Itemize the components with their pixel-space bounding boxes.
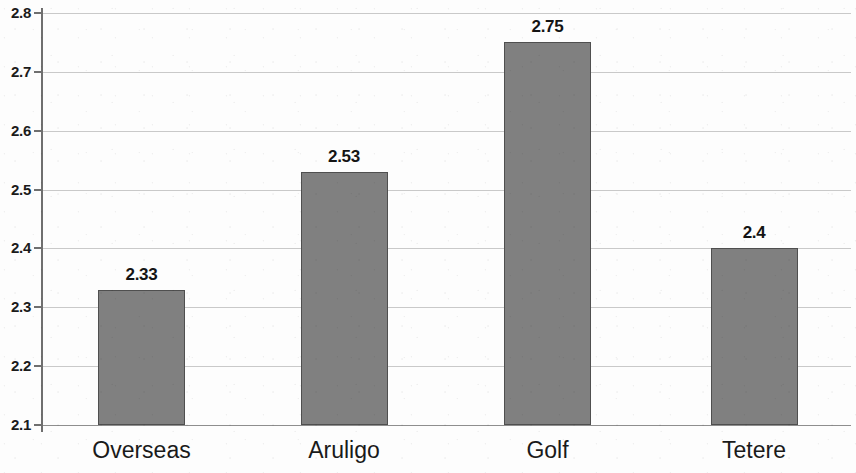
y-axis-tick [34, 306, 43, 308]
gridline [41, 131, 851, 132]
gridline [41, 190, 851, 191]
y-axis-tick-label: 2.3 [0, 298, 31, 315]
y-axis-tick-label: 2.7 [0, 63, 31, 80]
y-axis-tick [34, 247, 43, 249]
bar-chart: 2.82.72.62.52.42.32.22.1 2.332.532.752.4… [0, 0, 856, 473]
bar-value-label-overseas: 2.33 [92, 265, 192, 285]
y-axis-tick-label: 2.5 [0, 181, 31, 198]
gridline [41, 72, 851, 73]
y-axis-tick [34, 424, 43, 426]
y-axis-tick-label: 2.4 [0, 239, 31, 256]
y-axis-tick [34, 71, 43, 73]
y-axis-tick [34, 189, 43, 191]
gridline [41, 13, 851, 14]
y-axis-tick [34, 365, 43, 367]
bar-overseas [98, 290, 185, 425]
bar-value-label-tetere: 2.4 [704, 223, 804, 243]
y-axis-tick [34, 12, 43, 14]
x-axis-label-golf: Golf [458, 437, 638, 464]
bar-aruligo [301, 172, 388, 425]
gridline [41, 425, 851, 426]
x-axis-label-tetere: Tetere [664, 437, 844, 464]
y-axis-tick-label: 2.2 [0, 357, 31, 374]
x-axis-label-aruligo: Aruligo [254, 437, 434, 464]
y-axis-tick-label: 2.1 [0, 416, 31, 433]
bar-golf [504, 42, 591, 425]
bar-value-label-aruligo: 2.53 [294, 147, 394, 167]
y-axis-tick-label: 2.8 [0, 4, 31, 21]
x-axis-label-overseas: Overseas [52, 437, 232, 464]
bar-value-label-golf: 2.75 [498, 17, 598, 37]
y-axis-tick [34, 130, 43, 132]
bar-tetere [711, 248, 798, 425]
y-axis-tick-label: 2.6 [0, 122, 31, 139]
